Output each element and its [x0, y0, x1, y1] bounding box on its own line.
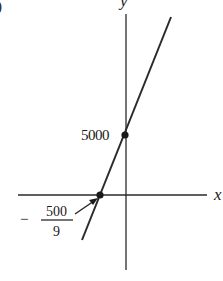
- y-intercept-dot: [121, 131, 128, 138]
- x-intercept-numerator: 500: [46, 204, 67, 219]
- line-graph: ) y x 5000 − 500 9: [0, 0, 223, 281]
- x-axis-label: x: [213, 185, 222, 204]
- x-intercept-denominator: 9: [53, 224, 60, 239]
- x-intercept-dot: [96, 191, 103, 198]
- y-intercept-label: 5000: [81, 127, 109, 143]
- corner-fragment: ): [0, 0, 2, 15]
- x-intercept-arrow: [75, 201, 94, 214]
- x-intercept-sign: −: [20, 211, 28, 227]
- y-axis-label: y: [118, 0, 128, 10]
